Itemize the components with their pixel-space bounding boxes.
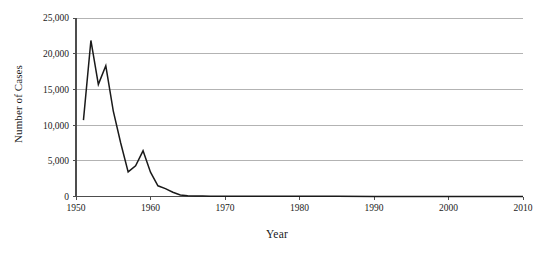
y-tick-label: 0 [64,192,69,202]
chart-axes [76,18,523,197]
line-chart-figure: 05,00010,00015,00020,00025,000 195019601… [0,0,554,255]
series-line [83,40,523,196]
data-series-lines [83,40,523,196]
y-axis-title: Number of Cases [12,34,24,174]
y-tick-label: 25,000 [43,13,69,23]
gridlines [76,18,523,161]
x-axis-tick-labels: 1950196019701980199020002010 [67,203,533,213]
x-tick-label: 1990 [365,203,384,213]
x-tick-label: 2010 [514,203,533,213]
x-tick-label: 1950 [67,203,86,213]
y-tick-label: 5,000 [48,156,70,166]
x-axis-title: Year [0,228,554,240]
y-axis-tick-labels: 05,00010,00015,00020,00025,000 [43,13,69,202]
y-tick-label: 15,000 [43,85,69,95]
x-tick-label: 2000 [439,203,458,213]
x-tick-label: 1980 [290,203,309,213]
y-tick-label: 20,000 [43,49,69,59]
chart-plot-area: 05,00010,00015,00020,00025,000 195019601… [0,0,554,255]
y-tick-label: 10,000 [43,121,69,131]
x-tick-label: 1960 [141,203,160,213]
x-tick-label: 1970 [216,203,235,213]
